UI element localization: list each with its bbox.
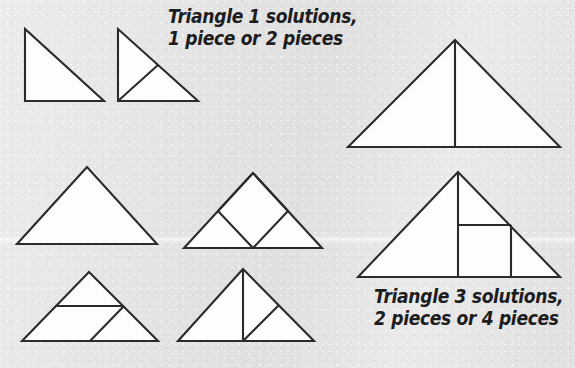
figure-triangle-2-one-piece [17,167,157,244]
triangle-2-inscribed-square-outline [184,173,322,248]
figure-triangle-1-one-piece [25,29,104,101]
triangle-2-one-piece-outline [17,167,157,244]
figure-triangle-2-midline-and-diagonal [22,272,158,341]
figure-triangle-3-four-pieces [358,172,560,277]
caption-triangle-3-line-2: 2 pieces or 4 pieces [374,307,559,330]
triangle-1-one-piece-outline [25,29,104,101]
figure-triangle-2-inscribed-square [184,173,322,248]
caption-triangle-3-line-1: Triangle 3 solutions, [374,285,563,308]
caption-triangle-1-line-2: 1 piece or 2 pieces [168,27,343,50]
caption-triangle-1-line-1: Triangle 1 solutions, [168,5,357,28]
figure-triangle-3-two-pieces [348,40,560,147]
triangle-2-altitude-outline [178,269,314,341]
caption-triangle-1: Triangle 1 solutions,1 piece or 2 pieces [168,6,357,50]
caption-triangle-3: Triangle 3 solutions,2 pieces or 4 piece… [374,286,563,330]
figure-page: Triangle 1 solutions,1 piece or 2 pieces… [0,0,575,368]
figure-triangle-2-altitude-and-diagonal [178,269,314,341]
